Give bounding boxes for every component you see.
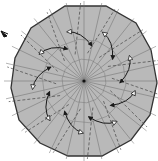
- diagram-canvas: [0, 0, 158, 161]
- origami-diagram: [0, 0, 158, 161]
- center-point: [82, 79, 85, 82]
- pointer-arrow-icon: [1, 31, 8, 37]
